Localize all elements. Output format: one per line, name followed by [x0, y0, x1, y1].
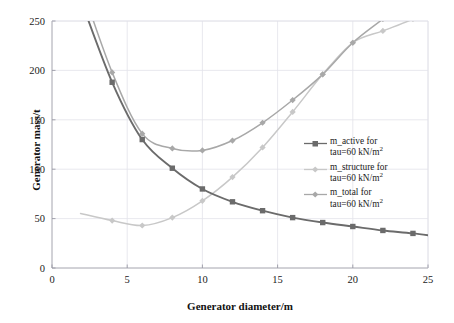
- svg-text:25: 25: [423, 274, 434, 285]
- svg-text:0: 0: [40, 263, 45, 274]
- legend-label-line1: m_structure for: [330, 162, 454, 173]
- legend: m_active for tau=60 kN/m2 m_structure fo…: [304, 136, 454, 213]
- svg-text:0: 0: [49, 274, 54, 285]
- svg-text:15: 15: [272, 274, 283, 285]
- legend-label-line2: tau=60 kN/m2: [330, 147, 454, 158]
- svg-text:10: 10: [197, 274, 208, 285]
- svg-text:20: 20: [348, 274, 359, 285]
- legend-item-m-active[interactable]: m_active for tau=60 kN/m2: [304, 136, 454, 159]
- svg-text:250: 250: [29, 16, 45, 27]
- legend-marker-diamond-icon: [304, 166, 327, 173]
- svg-text:5: 5: [125, 274, 130, 285]
- legend-label-line2: tau=60 kN/m2: [330, 199, 454, 210]
- y-axis-title: Generator mass/t: [30, 70, 42, 230]
- legend-label-line1: m_active for: [330, 136, 454, 147]
- x-axis-title: Generator diameter/m: [52, 300, 428, 312]
- legend-item-m-total[interactable]: m_total for tau=60 kN/m2: [304, 187, 454, 210]
- chart-figure: 0501001502002500510152025 Generator mass…: [0, 0, 454, 323]
- legend-item-m-structure[interactable]: m_structure for tau=60 kN/m2: [304, 162, 454, 185]
- legend-marker-diamond-icon: [304, 191, 327, 198]
- legend-marker-square-icon: [304, 140, 327, 147]
- legend-label-line2: tau=60 kN/m2: [330, 173, 454, 184]
- legend-label-line1: m_total for: [330, 187, 454, 198]
